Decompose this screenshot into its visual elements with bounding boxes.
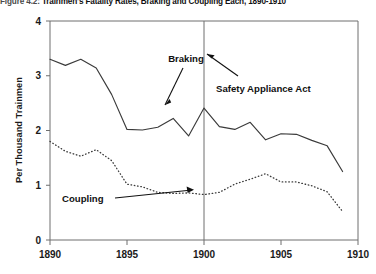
- y-tick-label-4: 4: [35, 16, 41, 27]
- y-tick-label-1: 1: [35, 180, 41, 191]
- annotation-coupling-arrowhead: [187, 187, 194, 193]
- annotation-safety-act-arrowhead: [207, 54, 215, 59]
- y-tick-label-3: 3: [35, 70, 41, 81]
- x-tick-label-1895: 1895: [116, 249, 139, 260]
- chart-canvas: 4 3 2 1 0 1890 1895 1900 1905 1910 Per T…: [0, 0, 376, 274]
- series-line-braking: [50, 59, 343, 171]
- y-tick-label-0: 0: [35, 235, 41, 246]
- y-axis-ticks: [46, 21, 50, 240]
- x-tick-label-1905: 1905: [270, 249, 293, 260]
- x-tick-label-1890: 1890: [39, 249, 62, 260]
- annotation-coupling-label: Coupling: [62, 193, 104, 204]
- x-tick-label-1910: 1910: [347, 249, 370, 260]
- annotation-braking-leader: [165, 68, 183, 105]
- y-axis-title: Per Thousand Trainmen: [14, 77, 24, 183]
- annotation-braking-label: Braking: [168, 53, 204, 64]
- x-tick-label-1900: 1900: [193, 249, 216, 260]
- annotation-safety-act-label: Safety Appliance Act: [216, 83, 312, 94]
- x-axis-ticks: [50, 240, 358, 245]
- y-tick-label-2: 2: [35, 125, 41, 136]
